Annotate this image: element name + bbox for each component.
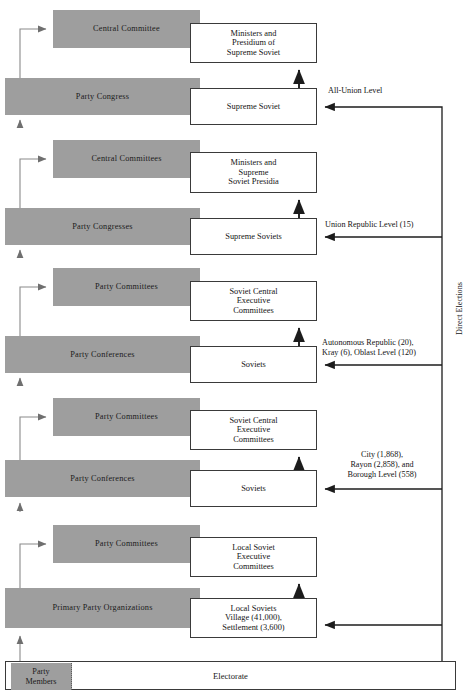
node-party-congresses[interactable]: Party Congresses <box>5 208 200 245</box>
node-label: Party Committees <box>95 412 158 421</box>
node-label: Party Committees <box>95 539 158 548</box>
node-label: Primary Party Organizations <box>52 603 152 612</box>
node-party-committees-city[interactable]: Party Committees <box>53 398 200 436</box>
node-supreme-soviets[interactable]: Supreme Soviets <box>190 218 317 255</box>
party-members-label: PartyMembers <box>26 667 57 686</box>
node-supreme-soviet[interactable]: Supreme Soviet <box>190 88 317 125</box>
node-party-conferences-oblast[interactable]: Party Conferences <box>5 336 200 373</box>
level-label-autonomous-republic: Autonomous Republic (20),Kray (6), Oblas… <box>322 338 416 358</box>
node-label: Party Conferences <box>70 350 134 359</box>
node-label: Party Congress <box>76 92 129 101</box>
node-label: Soviets <box>241 484 266 493</box>
direct-election-lines <box>325 107 442 661</box>
level-label-text: Autonomous Republic (20),Kray (6), Oblas… <box>322 338 416 358</box>
node-primary-party-organizations[interactable]: Primary Party Organizations <box>5 588 200 628</box>
level-label-union-republic: Union Republic Level (15) <box>325 220 413 230</box>
node-soviet-central-executive-committees-oblast[interactable]: Soviet CentralExecutiveCommittees <box>190 281 317 321</box>
level-label-text: City (1,868),Rayon (2,858), andBorough L… <box>322 450 442 480</box>
node-party-congress[interactable]: Party Congress <box>5 78 200 115</box>
node-soviets-city[interactable]: Soviets <box>190 470 317 507</box>
node-party-conferences-city[interactable]: Party Conferences <box>5 460 200 497</box>
direct-elections-text: Direct Elections <box>455 282 464 335</box>
diagram-canvas: Central Committee Party Congress Central… <box>0 0 468 695</box>
level-label-city-rayon-borough: City (1,868),Rayon (2,858), andBorough L… <box>322 450 442 480</box>
node-label: Central Committees <box>91 154 161 163</box>
electorate-label: Electorate <box>213 671 248 681</box>
node-ministers-supreme-soviet-presidia[interactable]: Ministers andSupremeSoviet Presidia <box>190 152 317 193</box>
node-central-committee[interactable]: Central Committee <box>53 10 200 48</box>
direct-elections-label: Direct Elections <box>455 282 464 335</box>
node-central-committees[interactable]: Central Committees <box>53 140 200 178</box>
node-soviets-oblast[interactable]: Soviets <box>190 346 317 383</box>
node-label: Central Committee <box>93 24 160 33</box>
party-members-box[interactable]: PartyMembers <box>11 663 72 690</box>
node-label: Party Congresses <box>72 222 133 231</box>
level-label-all-union: All-Union Level <box>328 86 382 96</box>
node-label: Local SovietsVillage (41,000),Settlement… <box>222 604 284 632</box>
node-soviet-central-executive-committees-city[interactable]: Soviet CentralExecutiveCommittees <box>190 410 317 450</box>
node-label: Ministers andSupremeSoviet Presidia <box>228 158 278 186</box>
electorate-box[interactable]: Electorate <box>5 661 456 690</box>
node-local-soviets-village-settlement[interactable]: Local SovietsVillage (41,000),Settlement… <box>190 598 317 638</box>
node-label: Supreme Soviet <box>227 102 280 111</box>
node-label: Ministers andPresidium ofSupreme Soviet <box>227 29 280 57</box>
level-label-text: All-Union Level <box>328 86 382 96</box>
node-label: Soviets <box>241 360 266 369</box>
node-party-committees-local[interactable]: Party Committees <box>53 525 200 563</box>
node-label: Party Committees <box>95 282 158 291</box>
node-party-committees-oblast[interactable]: Party Committees <box>53 268 200 306</box>
node-label: Local SovietExecutiveCommittees <box>232 543 275 571</box>
node-label: Soviet CentralExecutiveCommittees <box>229 416 277 444</box>
node-label: Party Conferences <box>70 474 134 483</box>
node-ministers-presidium-supreme-soviet[interactable]: Ministers andPresidium ofSupreme Soviet <box>190 23 317 63</box>
node-label: Supreme Soviets <box>225 232 282 241</box>
node-local-soviet-executive-committees[interactable]: Local SovietExecutiveCommittees <box>190 537 317 577</box>
node-label: Soviet CentralExecutiveCommittees <box>229 287 277 315</box>
level-label-text: Union Republic Level (15) <box>325 220 413 230</box>
